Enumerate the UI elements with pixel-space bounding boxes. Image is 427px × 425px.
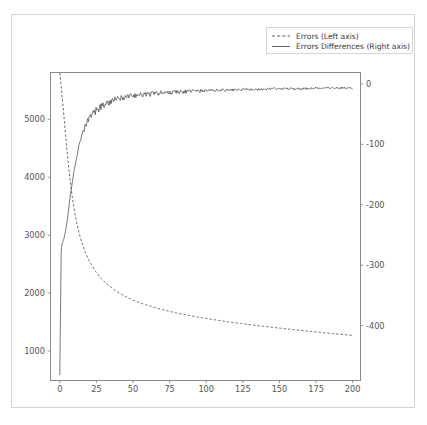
right-y-tick-label: -100 bbox=[366, 139, 385, 149]
axes-frame bbox=[51, 73, 361, 381]
x-tick-label: 175 bbox=[308, 384, 324, 394]
chart-legend: Errors (Left axis) Errors Differences (R… bbox=[267, 28, 413, 54]
x-tick-label: 0 bbox=[57, 384, 62, 394]
matplotlib-figure: 0255075100125150175200 10002000300040005… bbox=[0, 0, 427, 425]
left-y-tick-label: 2000 bbox=[24, 288, 45, 298]
right-y-tick-label: -300 bbox=[366, 260, 385, 270]
left-y-tick-label: 1000 bbox=[24, 346, 45, 356]
dual-axis-line-chart: 0255075100125150175200 10002000300040005… bbox=[0, 0, 427, 425]
series-errors bbox=[60, 73, 353, 335]
left-y-axis-ticks: 10002000300040005000 bbox=[24, 114, 51, 356]
x-tick-label: 75 bbox=[164, 384, 174, 394]
x-tick-label: 25 bbox=[91, 384, 101, 394]
x-tick-label: 50 bbox=[128, 384, 138, 394]
legend-label-errors: Errors (Left axis) bbox=[296, 32, 359, 41]
x-axis-ticks: 0255075100125150175200 bbox=[57, 380, 360, 394]
right-y-tick-label: -400 bbox=[366, 321, 385, 331]
left-y-tick-label: 5000 bbox=[24, 114, 45, 124]
left-y-tick-label: 3000 bbox=[24, 230, 45, 240]
left-y-tick-label: 4000 bbox=[24, 172, 45, 182]
x-tick-label: 150 bbox=[272, 384, 288, 394]
right-y-axis-ticks: 0-100-200-300-400 bbox=[360, 79, 385, 331]
x-tick-label: 200 bbox=[345, 384, 361, 394]
right-y-tick-label: -200 bbox=[366, 200, 385, 210]
x-tick-label: 125 bbox=[235, 384, 251, 394]
legend-label-errors-differences: Errors Differences (Right axis) bbox=[296, 42, 410, 51]
x-tick-label: 100 bbox=[198, 384, 214, 394]
series-errors-differences bbox=[60, 87, 353, 375]
right-y-tick-label: 0 bbox=[366, 79, 371, 89]
